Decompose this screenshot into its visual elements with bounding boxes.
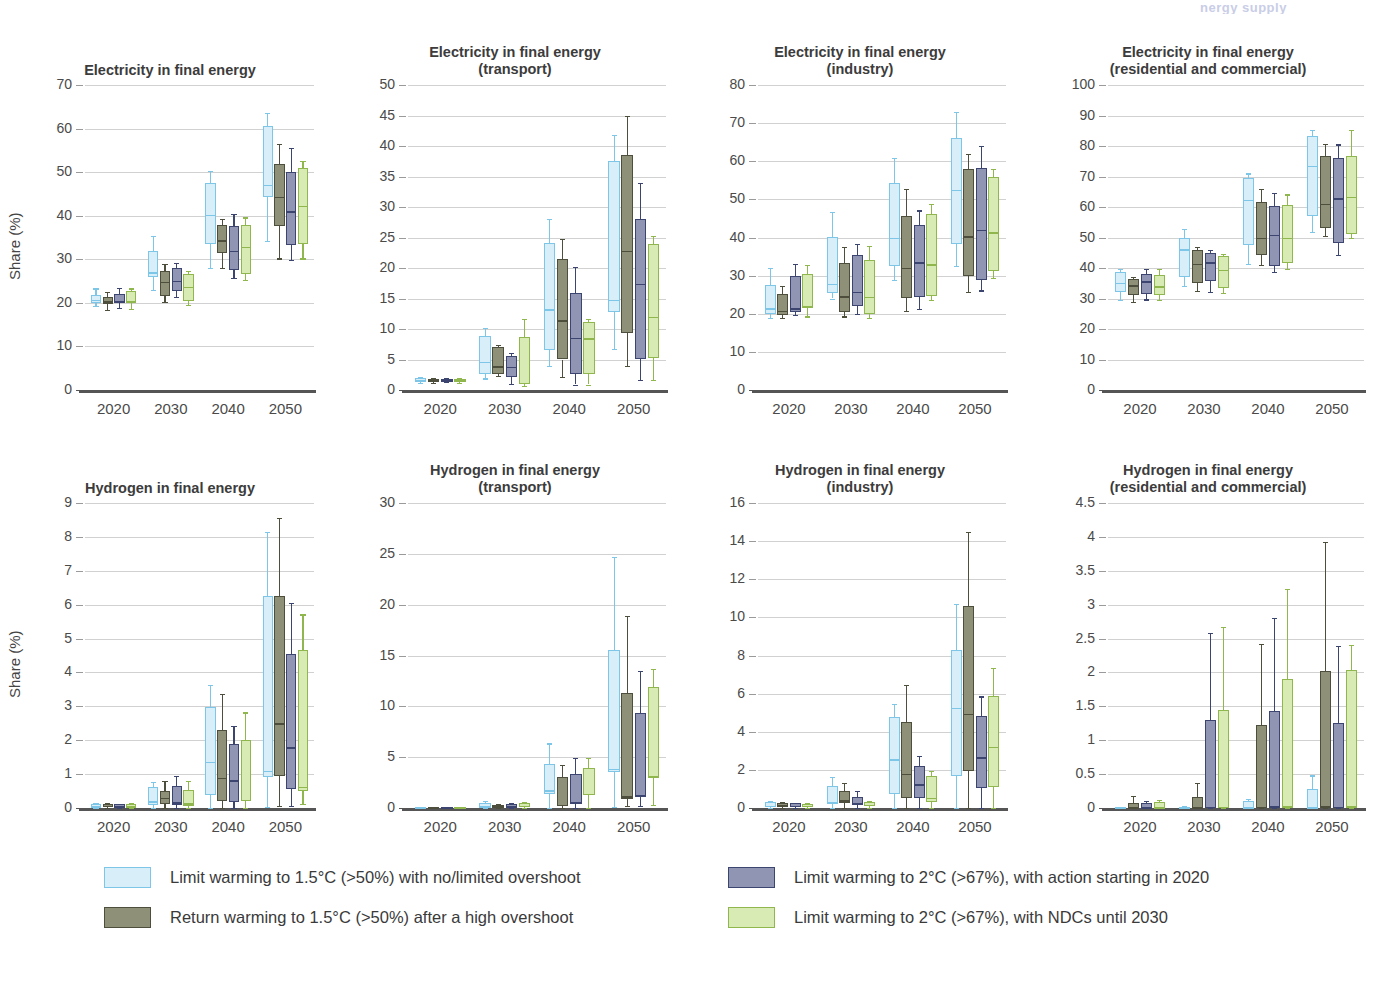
panel-title: Hydrogen in final energy(transport) — [340, 462, 690, 496]
legend-item-1[interactable]: Limit warming to 1.5°C (>50%) with no/li… — [104, 867, 581, 888]
whisker-upper — [233, 726, 234, 744]
whisker-upper — [1312, 775, 1313, 789]
legend-swatch — [104, 867, 151, 888]
y-tick-mark — [749, 352, 756, 353]
median-line — [492, 366, 504, 367]
whisker-cap-upper — [1323, 542, 1328, 543]
median-line — [274, 197, 284, 198]
y-tick-mark — [399, 268, 406, 269]
box-plot-box — [570, 293, 582, 374]
box-plot-box — [263, 596, 273, 777]
box-plot-box — [570, 774, 582, 803]
whisker-lower — [807, 307, 808, 317]
whisker-cap-lower — [129, 808, 134, 809]
whisker-cap-upper — [586, 758, 591, 759]
whisker-upper — [549, 219, 550, 243]
whisker-upper — [1197, 783, 1198, 797]
y-tick-mark — [76, 706, 83, 707]
whisker-cap-upper — [991, 668, 996, 669]
legend-item-2[interactable]: Limit warming to 2°C (>67%), with action… — [728, 867, 1209, 888]
y-tick-mark — [749, 617, 756, 618]
whisker-upper — [1223, 627, 1224, 710]
median-line — [839, 800, 850, 801]
median-line — [148, 272, 158, 273]
y-tick-label: 0 — [4, 381, 72, 397]
whisker-cap-lower — [625, 806, 630, 807]
whisker-cap-lower — [1221, 293, 1226, 294]
box-plot-box — [976, 716, 987, 788]
median-line — [852, 803, 863, 804]
median-line — [544, 309, 556, 310]
y-tick-mark — [399, 299, 406, 300]
y-tick-mark — [1099, 740, 1106, 741]
box-plot-box — [1333, 723, 1344, 808]
whisker-cap-lower — [220, 268, 225, 269]
y-tick-label: 12 — [694, 570, 745, 586]
legend-item-4[interactable]: Limit warming to 2°C (>67%), with NDCs u… — [728, 907, 1168, 928]
whisker-cap-lower — [830, 299, 835, 300]
legend-label: Limit warming to 1.5°C (>50%) with no/li… — [170, 868, 581, 887]
whisker-upper — [844, 247, 845, 263]
box-plot-box — [519, 337, 531, 384]
whisker-cap-lower — [1157, 300, 1162, 301]
y-tick-label: 7 — [4, 562, 72, 578]
median-line — [126, 806, 136, 807]
y-tick-label: 6 — [694, 685, 745, 701]
y-tick-mark — [399, 329, 406, 330]
whisker-cap-lower — [979, 290, 984, 291]
box-plot-box — [1320, 156, 1331, 229]
gridline — [1108, 116, 1364, 117]
whisker-lower — [653, 358, 654, 381]
whisker-cap-upper — [651, 236, 656, 237]
whisker-cap-lower — [1208, 808, 1213, 809]
x-tick-label: 2050 — [935, 400, 1015, 417]
whisker-upper — [153, 236, 154, 250]
whisker-cap-upper — [966, 532, 971, 533]
whisker-upper — [1261, 189, 1262, 202]
whisker-cap-lower — [612, 807, 617, 808]
y-tick-mark — [749, 85, 756, 86]
panel-2: Electricity in final energy(transport)05… — [340, 40, 690, 450]
y-tick-label: 3.5 — [1034, 562, 1095, 578]
whisker-cap-upper — [1182, 229, 1187, 230]
whisker-cap-lower — [1349, 238, 1354, 239]
y-tick-mark — [1099, 116, 1106, 117]
box-plot-box — [621, 155, 633, 333]
whisker-upper — [588, 758, 589, 768]
x-axis-line — [752, 390, 1008, 393]
median-line — [765, 806, 776, 807]
whisker-upper — [302, 614, 303, 650]
y-tick-mark — [76, 172, 83, 173]
box-plot-box — [1205, 253, 1216, 281]
y-tick-label: 4.5 — [1034, 494, 1095, 510]
whisker-cap-lower — [929, 300, 934, 301]
whisker-cap-upper — [651, 669, 656, 670]
panel-title: Electricity in final energy(transport) — [340, 44, 690, 78]
whisker-cap-lower — [174, 808, 179, 809]
y-tick-label: 0 — [344, 381, 395, 397]
whisker-lower — [1312, 216, 1313, 232]
box-plot-box — [241, 740, 251, 802]
box-plot-box — [648, 687, 660, 778]
y-tick-label: 40 — [344, 137, 395, 153]
whisker-cap-upper — [1285, 194, 1290, 195]
whisker-lower — [1133, 295, 1134, 302]
whisker-cap-lower — [509, 384, 514, 385]
median-line — [1256, 807, 1267, 808]
median-line — [1141, 281, 1152, 282]
box-plot-box — [889, 183, 900, 266]
y-tick-label: 20 — [694, 305, 745, 321]
whisker-upper — [894, 704, 895, 717]
median-line — [160, 798, 170, 799]
whisker-upper — [1338, 144, 1339, 158]
legend-item-3[interactable]: Return warming to 1.5°C (>50%) after a h… — [104, 907, 573, 928]
whisker-cap-lower — [208, 808, 213, 809]
panel-title: Electricity in final energy(industry) — [690, 44, 1030, 78]
whisker-cap-lower — [496, 808, 501, 809]
y-tick-label: 4 — [1034, 528, 1095, 544]
whisker-cap-lower — [768, 808, 773, 809]
whisker-upper — [1351, 645, 1352, 670]
median-line — [648, 776, 660, 777]
whisker-lower — [1338, 243, 1339, 255]
median-line — [1205, 807, 1216, 808]
